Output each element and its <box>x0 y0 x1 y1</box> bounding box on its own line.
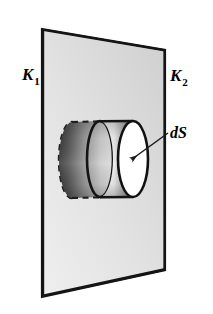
label-K1-subscript: 1 <box>34 75 40 87</box>
physics-diagram-gaussian-pillbox: K1 K2 dS <box>0 0 213 314</box>
label-K1-base: K <box>21 65 35 84</box>
pillbox-rear-barrel-bottom-edge <box>72 197 100 198</box>
label-K1: K1 <box>21 65 40 87</box>
label-K2-base: K <box>169 66 183 85</box>
label-K2: K2 <box>169 66 188 88</box>
figure-root: K1 K2 dS <box>0 0 213 314</box>
label-K2-subscript: 2 <box>182 76 188 88</box>
label-dS: dS <box>170 124 187 141</box>
